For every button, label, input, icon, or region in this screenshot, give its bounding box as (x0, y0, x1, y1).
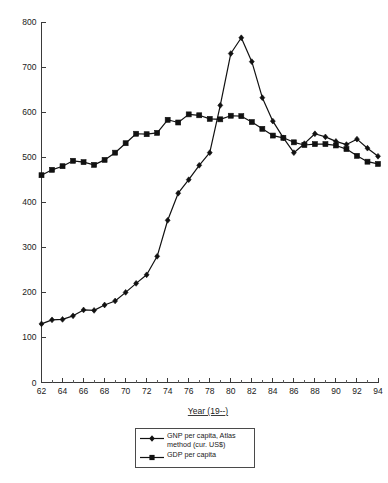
y-axis: 0100200300400500600700800 (22, 17, 46, 388)
series-gdp (39, 112, 381, 178)
data-point-marker (165, 217, 170, 223)
data-point-marker (60, 317, 65, 323)
data-point-marker (176, 120, 181, 125)
chart-container: 0100200300400500600700800 62646668707274… (0, 0, 388, 483)
x-axis-title: Year (19--) (188, 406, 228, 416)
x-tick-label: 76 (184, 386, 194, 396)
x-tick-label: 68 (100, 386, 110, 396)
data-point-marker (102, 302, 107, 308)
data-point-marker (354, 153, 359, 158)
x-tick-label: 94 (373, 386, 383, 396)
x-tick-label: 90 (331, 386, 341, 396)
x-tick-label: 84 (268, 386, 278, 396)
data-point-marker (39, 173, 44, 178)
data-point-marker (260, 126, 265, 131)
y-tick-label: 500 (22, 152, 36, 162)
data-point-marker (344, 147, 349, 152)
data-point-marker (165, 117, 170, 122)
x-tick-label: 88 (310, 386, 320, 396)
series-layer (39, 35, 381, 327)
x-tick-label: 72 (142, 386, 152, 396)
y-tick-label: 700 (22, 62, 36, 72)
y-tick-label: 400 (22, 197, 36, 207)
data-point-marker (81, 160, 86, 165)
data-point-marker (323, 142, 328, 147)
x-tick-label: 80 (226, 386, 236, 396)
x-tick-label: 66 (79, 386, 89, 396)
x-tick-label: 92 (352, 386, 362, 396)
data-point-marker (249, 120, 254, 125)
y-tick-label: 800 (22, 17, 36, 27)
legend-item-gdp: GDP per capita (140, 451, 250, 463)
x-tick-label: 70 (121, 386, 131, 396)
x-tick-label: 74 (163, 386, 173, 396)
data-point-marker (270, 133, 275, 138)
chart-legend: GNP per capita, Atlas method (cur. US$) … (135, 428, 255, 468)
x-tick-label: 86 (289, 386, 299, 396)
y-tick-label: 200 (22, 287, 36, 297)
data-point-marker (207, 116, 212, 121)
y-tick-label: 300 (22, 242, 36, 252)
y-tick-label: 100 (22, 332, 36, 342)
legend-item-gnp: GNP per capita, Atlas method (cur. US$) (140, 432, 250, 449)
line-chart-plot: 0100200300400500600700800 62646668707274… (0, 0, 388, 483)
data-point-marker (71, 158, 76, 163)
data-point-marker (249, 59, 254, 65)
x-tick-label: 82 (247, 386, 257, 396)
data-point-marker (81, 307, 86, 313)
legend-label-gdp: GDP per capita (167, 451, 216, 460)
series-gnp (39, 35, 380, 327)
data-point-marker (323, 134, 328, 140)
data-point-marker (39, 321, 44, 327)
data-point-marker (312, 142, 317, 147)
data-point-marker (102, 157, 107, 162)
legend-marker-square-icon (140, 452, 164, 463)
data-point-marker (197, 113, 202, 118)
data-point-marker (186, 112, 191, 117)
data-point-marker (155, 130, 160, 135)
data-point-marker (228, 113, 233, 118)
legend-label-gnp: GNP per capita, Atlas method (cur. US$) (167, 432, 236, 449)
data-point-marker (92, 162, 97, 167)
data-point-marker (218, 117, 223, 122)
data-point-marker (239, 114, 244, 119)
series-line (42, 38, 379, 324)
data-point-marker (50, 317, 55, 323)
legend-marker-diamond-icon (140, 433, 164, 444)
data-point-marker (365, 159, 370, 164)
data-point-marker (71, 313, 76, 319)
data-point-marker (333, 143, 338, 148)
x-axis: 6264666870727476788082848688909294 (37, 378, 383, 396)
data-point-marker (113, 150, 118, 155)
data-point-marker (260, 95, 265, 101)
data-point-marker (123, 141, 128, 146)
x-tick-label: 78 (205, 386, 215, 396)
data-point-marker (291, 140, 296, 145)
data-point-marker (50, 167, 55, 172)
data-point-marker (302, 143, 307, 148)
data-point-marker (218, 102, 223, 108)
data-point-marker (92, 308, 97, 314)
data-point-marker (60, 164, 65, 169)
data-point-marker (281, 135, 286, 140)
y-tick-label: 600 (22, 107, 36, 117)
data-point-marker (144, 132, 149, 137)
data-point-marker (376, 161, 381, 166)
x-tick-label: 64 (58, 386, 68, 396)
data-point-marker (134, 131, 139, 136)
x-tick-label: 62 (37, 386, 47, 396)
